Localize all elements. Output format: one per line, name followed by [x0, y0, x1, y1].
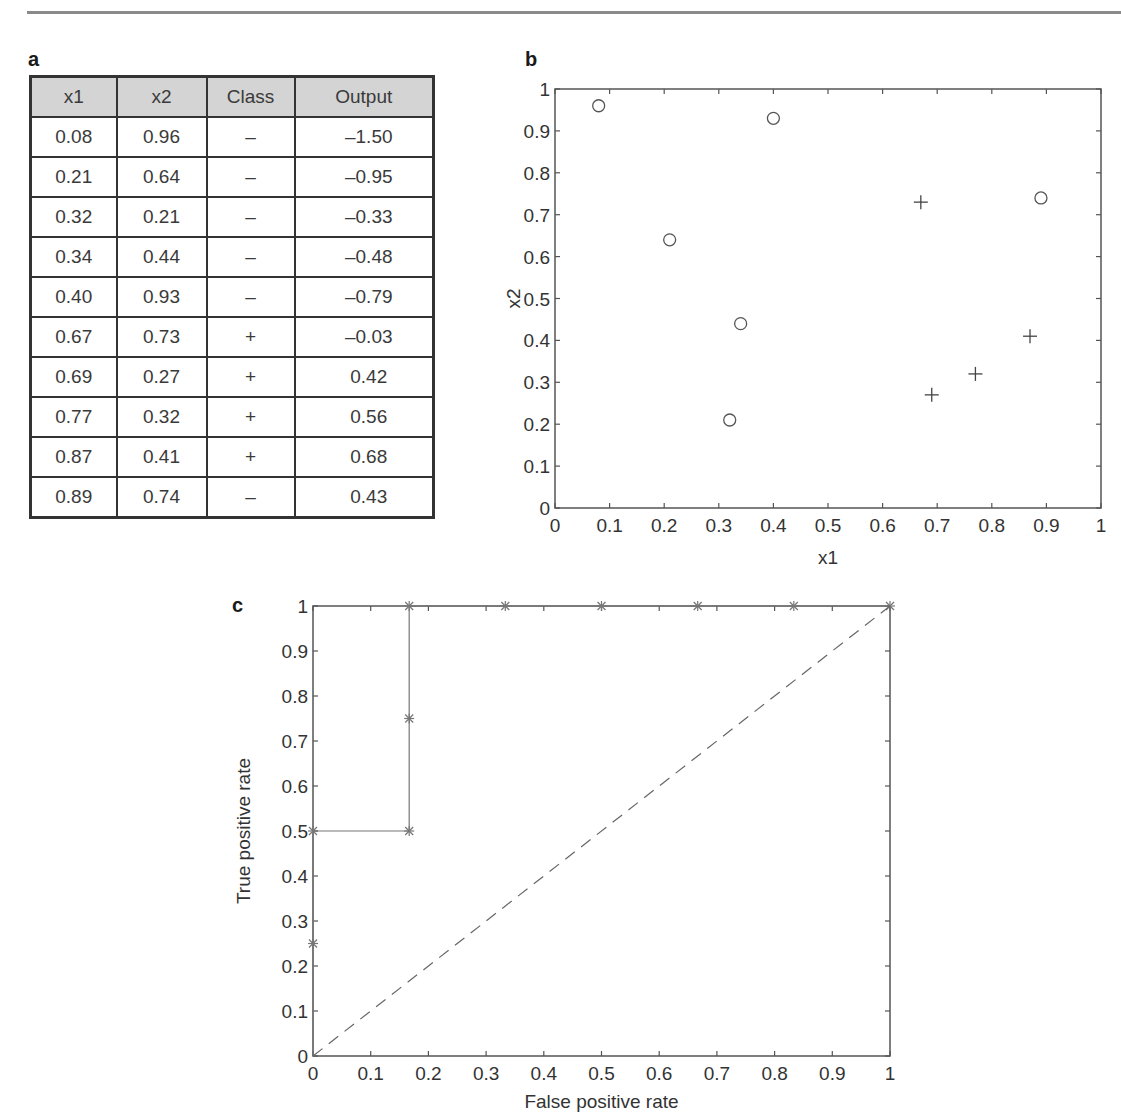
- y-tick-label: 0.6: [282, 776, 308, 797]
- x-tick-label: 0.3: [473, 1063, 499, 1084]
- y-tick-label: 0.3: [282, 911, 308, 932]
- asterisk-marker-icon: [597, 601, 607, 611]
- x-tick-label: 0.8: [761, 1063, 787, 1084]
- y-tick-label: 1: [297, 596, 308, 617]
- asterisk-marker-icon: [308, 826, 318, 836]
- x-tick-label: 0.9: [819, 1063, 845, 1084]
- x-tick-label: 0.7: [704, 1063, 730, 1084]
- y-tick-label: 0.1: [282, 1001, 308, 1022]
- y-axis-label: True positive rate: [233, 758, 254, 904]
- y-tick-label: 0.9: [282, 641, 308, 662]
- x-tick-label: 0.5: [588, 1063, 614, 1084]
- x-axis-label: False positive rate: [524, 1091, 678, 1112]
- y-tick-label: 0.7: [282, 731, 308, 752]
- x-tick-label: 0.2: [415, 1063, 441, 1084]
- asterisk-marker-icon: [693, 601, 703, 611]
- x-tick-label: 0.6: [646, 1063, 672, 1084]
- asterisk-marker-icon: [404, 601, 414, 611]
- x-tick-label: 0.1: [357, 1063, 383, 1084]
- x-tick-label: 1: [885, 1063, 896, 1084]
- asterisk-marker-icon: [404, 714, 414, 724]
- roc-plot: 00.10.20.30.40.50.60.70.80.9100.10.20.30…: [0, 0, 1121, 1120]
- y-tick-label: 0.5: [282, 821, 308, 842]
- y-tick-label: 0.4: [282, 866, 309, 887]
- asterisk-marker-icon: [404, 826, 414, 836]
- asterisk-marker-icon: [500, 601, 510, 611]
- y-tick-label: 0.8: [282, 686, 308, 707]
- asterisk-marker-icon: [308, 939, 318, 949]
- x-tick-label: 0: [308, 1063, 319, 1084]
- y-tick-label: 0.2: [282, 956, 308, 977]
- x-tick-label: 0.4: [531, 1063, 558, 1084]
- y-tick-label: 0: [297, 1046, 308, 1067]
- asterisk-marker-icon: [789, 601, 799, 611]
